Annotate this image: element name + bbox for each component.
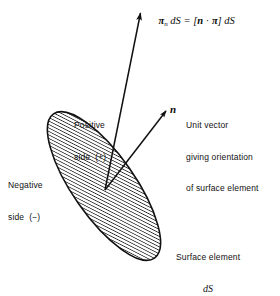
positive-side-label: Positive side (+) [74, 99, 106, 183]
equation-mid-text: dS = [ [168, 15, 198, 26]
normal-vector-label: n [170, 103, 176, 115]
unit-vector-label-line1: Unit vector [186, 120, 259, 131]
equation-dot-operator: · [203, 15, 212, 26]
equation-tail-text: ] dS [218, 15, 235, 26]
traction-equation: πn dS = [n · π] dS [148, 3, 235, 42]
unit-vector-label-line3: of surface element [186, 183, 259, 194]
unit-vector-description-label: Unit vector giving orientation of surfac… [186, 99, 259, 215]
surface-element-label-line1: Surface element [176, 252, 240, 263]
surface-element-ds-label: dS [176, 284, 240, 295]
negative-side-label-line1: Negative [8, 180, 43, 191]
unit-vector-label-line2: giving orientation [186, 152, 259, 163]
positive-side-label-line1: Positive [74, 120, 106, 131]
positive-side-label-line2: side (+) [74, 152, 106, 163]
surface-element-label: Surface element dS [176, 231, 240, 296]
negative-side-label: Negative side (−) [8, 159, 43, 243]
negative-side-label-line2: side (−) [8, 212, 43, 223]
